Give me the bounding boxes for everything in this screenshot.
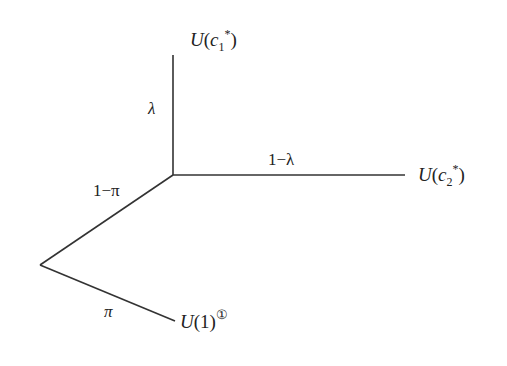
utility-symbol: U <box>180 311 194 332</box>
argument: (1) <box>194 311 216 332</box>
prob-label-one-minus-lambda: 1−λ <box>268 151 294 168</box>
consumption-symbol: c <box>438 164 446 185</box>
decision-tree-diagram: U(c1*) U(c2*) U(1)① λ 1−λ 1−π π <box>0 0 507 366</box>
prob-text: 1−π <box>93 181 120 200</box>
subscript: 1 <box>219 40 225 54</box>
prob-label-one-minus-pi: 1−π <box>93 182 120 199</box>
top-outcome-label: U(c1*) <box>190 30 237 49</box>
footnote-marker: ① <box>216 307 228 322</box>
prob-label-lambda: λ <box>148 100 155 117</box>
utility-symbol: U <box>190 29 204 50</box>
utility-symbol: U <box>418 164 432 185</box>
subscript: 2 <box>447 175 453 189</box>
prob-label-pi: π <box>104 303 113 320</box>
prob-text: 1−λ <box>268 150 294 169</box>
superscript: * <box>225 27 231 41</box>
consumption-symbol: c <box>210 29 218 50</box>
right-outcome-label: U(c2*) <box>418 165 465 184</box>
superscript: * <box>453 162 459 176</box>
bottom-outcome-label: U(1)① <box>180 312 228 331</box>
